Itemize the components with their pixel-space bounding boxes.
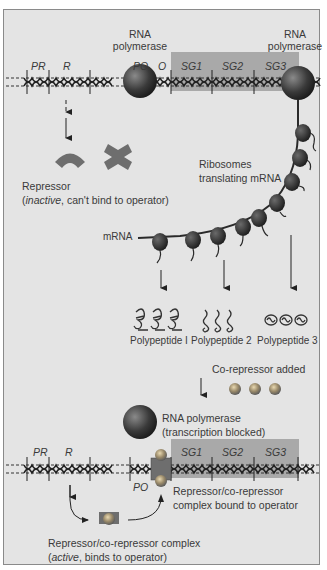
ribosomes-label: Ribosomes <box>199 158 252 170</box>
gene-po-bottom: PO <box>133 481 148 493</box>
corepressor-added-label: Co-repressor added <box>212 363 305 375</box>
gene-pr-bottom: PR <box>33 446 48 458</box>
polypeptide-3-label: Polypeptide 3 <box>257 335 318 347</box>
repressor-label: Repressor <box>22 180 70 192</box>
active-complex-label: Repressor/co-repressor complex <box>48 537 200 549</box>
rna-polymerase-label-right: RNA polymerase <box>265 28 325 52</box>
free-complex <box>99 512 119 525</box>
bound-complex-label: Repressor/co-repressor <box>173 485 283 497</box>
transcription-blocked-label: (transcription blocked) <box>162 426 265 438</box>
rna-polymerase-blocked <box>123 405 157 439</box>
gene-sg3-top: SG3 <box>265 60 286 72</box>
gene-pr-top: PR <box>31 60 46 72</box>
polypeptide-shapes <box>134 309 307 332</box>
gene-o-top: O <box>158 60 166 72</box>
repressor-state-label: (inactive, can't bind to operator) <box>22 194 169 206</box>
gene-sg2-bottom: SG2 <box>222 446 243 458</box>
rna-polymerase-label-left: RNA polymerase <box>112 28 168 52</box>
gene-sg2-top: SG2 <box>222 60 243 72</box>
repressor-inactive-shapes <box>55 144 132 170</box>
mrna-label: mRNA <box>103 231 132 243</box>
gene-sg3-bottom: SG3 <box>265 446 286 458</box>
gene-r-top: R <box>63 60 71 72</box>
rna-polymerase-right <box>281 66 315 100</box>
gene-r-bottom: R <box>65 446 73 458</box>
polypeptide-1-label: Polypeptide I <box>130 335 188 347</box>
corepressor-spheres <box>229 383 281 395</box>
rna-polymerase-blocked-label: RNA polymerase <box>162 412 241 424</box>
bound-complex-label-2: complex bound to operator <box>173 499 298 511</box>
gene-po-top: PO <box>133 60 148 72</box>
polypeptide-2-label: Polypeptide 2 <box>191 335 252 347</box>
ribosomes-label-2: translating mRNA <box>199 172 281 184</box>
gene-sg1-top: SG1 <box>181 60 202 72</box>
active-complex-state-label: (active, binds to operator) <box>48 551 167 563</box>
gene-sg1-bottom: SG1 <box>181 446 202 458</box>
